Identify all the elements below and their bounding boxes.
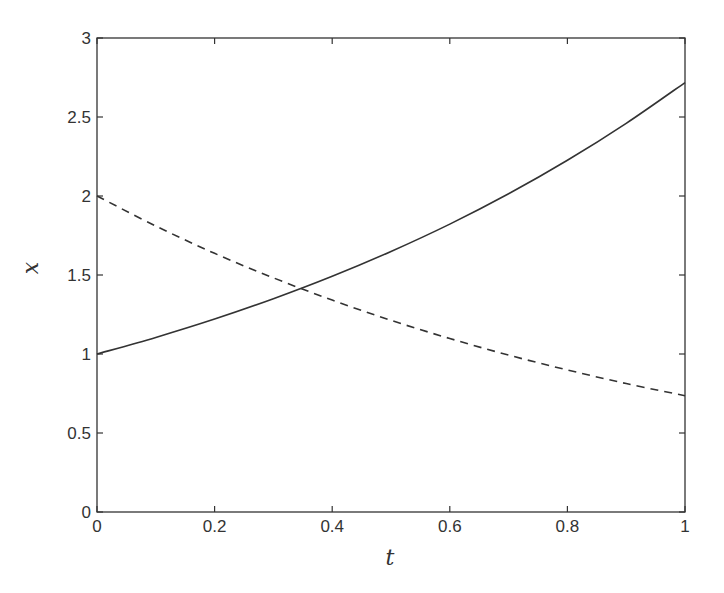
x-tick-label: 0.8	[556, 517, 580, 536]
y-tick-label: 0.5	[67, 424, 91, 443]
x-tick-labels: 00.20.40.60.81	[92, 517, 689, 536]
x-axis-label: t	[386, 545, 395, 570]
axis-ticks	[97, 38, 685, 512]
x-tick-label: 0	[92, 517, 101, 536]
x-tick-label: 0.4	[320, 517, 344, 536]
y-tick-label: 1	[82, 345, 91, 364]
x-tick-label: 1	[680, 517, 689, 536]
series-dashed-line	[97, 196, 685, 396]
y-tick-label: 0	[82, 503, 91, 522]
plot-border	[97, 38, 685, 512]
x-tick-label: 0.2	[203, 517, 227, 536]
y-tick-label: 1.5	[67, 266, 91, 285]
y-tick-label: 2	[82, 187, 91, 206]
y-tick-label: 2.5	[67, 108, 91, 127]
y-tick-labels: 00.511.522.53	[67, 29, 91, 522]
plot-frame	[97, 38, 685, 512]
data-series	[97, 83, 685, 396]
y-tick-label: 3	[82, 29, 91, 48]
line-chart: 00.20.40.60.81 00.511.522.53 t x	[0, 0, 724, 593]
x-tick-label: 0.6	[438, 517, 462, 536]
series-solid-line	[97, 83, 685, 354]
y-axis-label: x	[18, 261, 43, 274]
